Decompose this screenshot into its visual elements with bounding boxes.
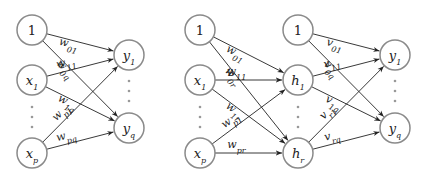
weight-label: vrq [323,127,342,147]
node-single-layer-yq: yq [114,113,144,143]
node-single-layer-xp: xp [17,138,47,168]
node-single-layer-x1: x1 [17,65,47,95]
node-label: 1 [196,23,204,38]
edge-b-yq [43,41,118,117]
node-two-layer-hr: hr [283,138,313,168]
edge-b-h1 [213,37,283,73]
weight-label: w01 [223,42,248,66]
node-two-layer-b: 1 [185,15,215,45]
node-label: 1 [294,23,302,38]
node-two-layer-xp: xp [185,138,215,168]
edge-b2-y1 [313,34,380,51]
edge-b2-yq [309,41,384,117]
node-two-layer-y1: y1 [380,40,410,70]
edge-b-hr [209,42,288,141]
weight-label: wpr [227,138,247,155]
weight-label: w01 [57,35,80,56]
node-two-layer-x1: x1 [185,65,215,95]
edge-hr-yq [313,132,380,149]
node-label: 1 [28,23,36,38]
node-single-layer-b: 1 [17,15,47,45]
node-two-layer-yq: yq [380,113,410,143]
neural-network-diagrams: w01w0qw11w1qwp1wpqw01w0rw11w1rwp1wprv01v… [0,0,426,183]
node-single-layer-y1: y1 [114,40,144,70]
edge-b-y1 [47,34,114,51]
weight-label: v01 [324,35,344,55]
node-two-layer-b2: 1 [283,15,313,45]
edge-hr-y1 [309,66,384,142]
node-two-layer-h1: h1 [283,65,313,95]
